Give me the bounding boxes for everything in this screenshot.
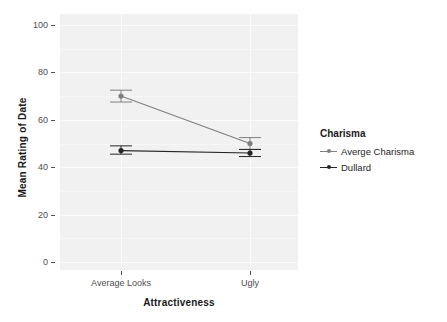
- y-tick-label-80: 80: [38, 67, 48, 77]
- legend-item-1[interactable]: Dullard: [320, 160, 445, 175]
- legend-items: Averge CharismaDullard: [320, 144, 445, 175]
- y-axis: 020406080100: [0, 14, 60, 270]
- gridline-y-80: [60, 72, 298, 73]
- legend-title: Charisma: [320, 128, 445, 139]
- legend-label-0: Averge Charisma: [341, 146, 414, 157]
- y-tick-label-40: 40: [38, 162, 48, 172]
- gridline-x-0: [121, 14, 122, 270]
- y-tick-mark-80: [51, 72, 55, 73]
- y-tick-label-20: 20: [38, 210, 48, 220]
- gridline-minor-y-70: [60, 96, 298, 97]
- gridline-minor-y-90: [60, 49, 298, 50]
- gridline-y-40: [60, 167, 298, 168]
- gridline-minor-y-10: [60, 238, 298, 239]
- x-tick-mark-1: [250, 271, 251, 275]
- y-tick-label-100: 100: [33, 20, 48, 30]
- gridline-y-60: [60, 120, 298, 121]
- legend-key-dot-icon: [327, 165, 332, 170]
- y-tick-label-0: 0: [43, 257, 48, 267]
- y-tick-mark-20: [51, 215, 55, 216]
- legend: Charisma Averge CharismaDullard: [320, 128, 445, 176]
- gridline-minor-y-50: [60, 144, 298, 145]
- gridline-y-100: [60, 25, 298, 26]
- x-axis-title: Attractiveness: [60, 297, 298, 308]
- y-tick-mark-40: [51, 167, 55, 168]
- y-tick-label-60: 60: [38, 115, 48, 125]
- gridline-y-0: [60, 262, 298, 263]
- x-tick-mark-0: [121, 271, 122, 275]
- x-tick-label-0: Average Looks: [91, 278, 151, 288]
- y-tick-mark-60: [51, 120, 55, 121]
- gridline-y-20: [60, 215, 298, 216]
- legend-key-icon-0: [320, 146, 337, 157]
- gridline-minor-y-30: [60, 191, 298, 192]
- legend-key-icon-1: [320, 162, 337, 173]
- x-tick-label-1: Ugly: [241, 278, 259, 288]
- plot-panel: [60, 14, 298, 270]
- legend-label-1: Dullard: [341, 162, 371, 173]
- legend-key-dot-icon: [327, 149, 332, 154]
- gridline-x-1: [250, 14, 251, 270]
- y-tick-mark-0: [51, 262, 55, 263]
- chart-figure: 020406080100 Mean Rating of Date Attract…: [0, 0, 447, 322]
- y-tick-mark-100: [51, 25, 55, 26]
- legend-item-0[interactable]: Averge Charisma: [320, 144, 445, 159]
- y-axis-title: Mean Rating of Date: [17, 58, 28, 238]
